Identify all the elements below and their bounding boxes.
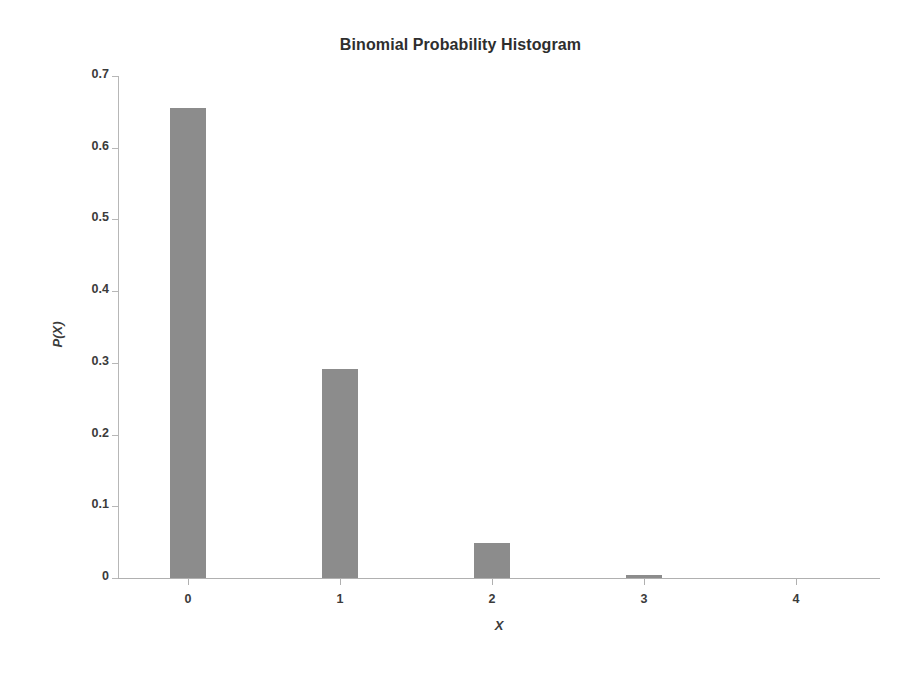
bar (474, 543, 510, 578)
x-tick-mark (644, 578, 645, 585)
x-tick-label: 2 (462, 592, 522, 606)
x-tick-mark (340, 578, 341, 585)
x-axis-title: X (118, 618, 880, 633)
y-tick-mark (112, 76, 118, 77)
y-axis-spine (118, 76, 119, 578)
y-tick-mark (112, 435, 118, 436)
y-tick-label: 0.1 (92, 497, 109, 511)
bar (322, 369, 358, 578)
bar (170, 108, 206, 578)
y-tick-label: 0.2 (92, 426, 109, 440)
x-tick-mark (188, 578, 189, 585)
bar (626, 575, 662, 578)
y-tick-mark (112, 291, 118, 292)
x-tick-label: 0 (158, 592, 218, 606)
y-tick-mark (112, 578, 118, 579)
x-tick-label: 4 (766, 592, 826, 606)
y-tick-mark (112, 148, 118, 149)
y-tick-label: 0.6 (92, 139, 109, 153)
y-tick-label: 0.4 (92, 282, 109, 296)
y-tick-mark (112, 363, 118, 364)
x-tick-mark (492, 578, 493, 585)
chart-figure: Binomial Probability Histogram 00.10.20.… (0, 0, 921, 674)
plot-area: 00.10.20.30.40.50.60.7 01234 (118, 76, 880, 578)
x-tick-label: 1 (310, 592, 370, 606)
y-tick-label: 0.7 (92, 67, 109, 81)
x-axis-spine (118, 578, 880, 579)
y-tick-label: 0.3 (92, 354, 109, 368)
y-tick-mark (112, 506, 118, 507)
y-tick-label: 0 (102, 569, 109, 583)
y-tick-label: 0.5 (92, 210, 109, 224)
chart-title: Binomial Probability Histogram (0, 36, 921, 54)
x-tick-label: 3 (614, 592, 674, 606)
y-axis-title: P(X) (50, 322, 65, 348)
y-tick-mark (112, 219, 118, 220)
x-tick-mark (796, 578, 797, 585)
